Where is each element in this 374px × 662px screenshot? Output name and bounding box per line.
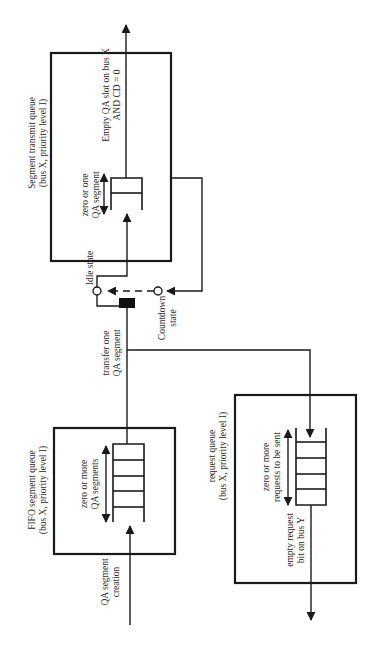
- diagram-canvas: [0, 0, 374, 662]
- segment-transmit-queue-capacity-label: zero or one QA segment: [80, 171, 102, 218]
- segment-transmit-queue-title: Segment transmit queue (bus X, priority …: [27, 97, 49, 189]
- countdown-state-label: Countdown state: [157, 296, 179, 340]
- transfer-label: transfer one QA segment: [101, 329, 123, 376]
- qa-segment-creation-label: QA segment creation: [100, 558, 122, 605]
- segment-transmit-queue-condition: Empty QA slot on bus X AND CD = 0: [101, 48, 123, 142]
- request-queue-capacity-label: zero or more requests to be sent: [261, 432, 283, 502]
- request-queue-title: request queue (bus X, priority level I): [207, 412, 229, 500]
- fifo-segment-queue-title: FIFO segment queue (bus X, priority leve…: [27, 446, 49, 534]
- empty-request-bit-label: empty request bit on bus Y: [285, 513, 307, 567]
- idle-state-label: Idle state: [85, 251, 96, 286]
- fifo-queue-capacity-label: zero or more QA segments: [79, 459, 101, 510]
- request-queue-box: [235, 395, 356, 620]
- feedback-path: [167, 178, 202, 291]
